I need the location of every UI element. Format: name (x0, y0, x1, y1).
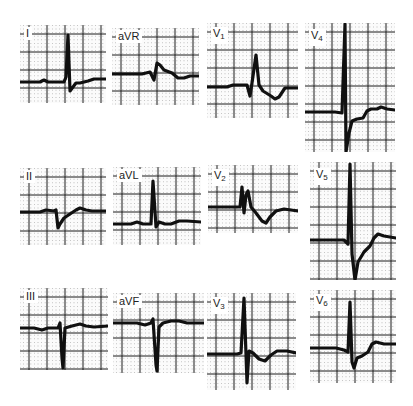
lead-label: V6 (314, 294, 331, 311)
lead-label-text: I (26, 27, 29, 39)
ecg-grid-and-trace (20, 25, 106, 103)
lead-label-text: aVF (119, 295, 139, 307)
ecg-lead-iii: III (20, 288, 108, 370)
lead-label: V4 (309, 29, 326, 46)
lead-label: II (24, 170, 35, 183)
ecg-lead-ii: II (20, 168, 106, 245)
lead-label-text: II (26, 170, 32, 182)
lead-label: aVR (116, 30, 142, 43)
lead-label: aVF (117, 295, 142, 308)
ecg-lead-v5: V5 (310, 162, 396, 280)
lead-label: III (24, 290, 38, 303)
ecg-lead-v1: V1 (207, 23, 298, 118)
ecg-lead-v2: V2 (208, 165, 298, 233)
ecg-lead-v4: V4 (305, 23, 395, 152)
lead-label-subscript: 3 (220, 302, 224, 311)
lead-label-text: III (26, 290, 35, 302)
ecg-lead-avl: aVL (113, 167, 201, 245)
ecg-lead-i: I (20, 25, 106, 103)
lead-label: V2 (212, 169, 229, 186)
ecg-lead-v3: V3 (207, 293, 296, 390)
ecg-lead-v6: V6 (310, 290, 396, 383)
lead-label: aVL (117, 169, 142, 182)
lead-label-subscript: 4 (318, 34, 322, 43)
lead-label-subscript: 1 (220, 32, 224, 41)
lead-label-text: aVR (118, 30, 139, 42)
lead-label-subscript: 2 (221, 174, 225, 183)
ecg-lead-avr: aVR (112, 28, 199, 105)
ecg-lead-avf: aVF (113, 293, 204, 373)
lead-label: V1 (211, 27, 228, 44)
lead-label-text: aVL (119, 169, 139, 181)
lead-label: V5 (314, 168, 331, 185)
lead-label-subscript: 5 (323, 173, 327, 182)
lead-label: V3 (211, 297, 228, 314)
lead-label: I (24, 27, 32, 40)
lead-label-subscript: 6 (323, 299, 327, 308)
ecg-waveform (113, 181, 201, 227)
